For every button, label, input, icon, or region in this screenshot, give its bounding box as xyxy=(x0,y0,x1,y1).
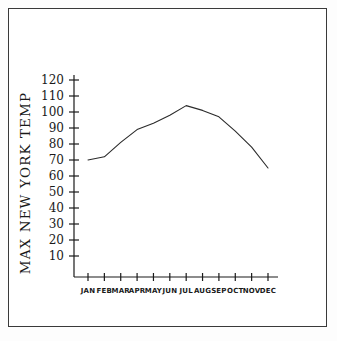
y-tick-label: 30 xyxy=(28,218,64,230)
y-tick-label: 110 xyxy=(28,90,64,102)
chart-axes xyxy=(74,75,278,277)
x-tick-label: DEC xyxy=(257,288,279,295)
y-tick-label: 80 xyxy=(28,138,64,150)
y-tick-label: 90 xyxy=(28,122,64,134)
y-tick-label: 20 xyxy=(28,234,64,246)
data-series-line xyxy=(88,106,268,168)
y-tick-label: 120 xyxy=(28,74,64,86)
y-tick-label: 70 xyxy=(28,154,64,166)
chart-page: MAX NEW YORK TEMP 1020304050607080901001… xyxy=(0,0,337,341)
y-tick-label: 100 xyxy=(28,106,64,118)
y-tick-label: 50 xyxy=(28,186,64,198)
y-tick-label: 60 xyxy=(28,170,64,182)
y-tick-label: 40 xyxy=(28,202,64,214)
y-tick-label: 10 xyxy=(28,250,64,262)
tick-marks xyxy=(69,80,268,281)
